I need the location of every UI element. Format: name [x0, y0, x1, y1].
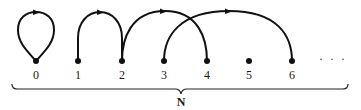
node-4	[204, 58, 210, 64]
node-2	[119, 58, 125, 64]
nodes	[33, 58, 295, 64]
node-3	[161, 58, 167, 64]
arrow-icon	[97, 10, 104, 16]
node-label-5: 5	[246, 68, 252, 82]
node-labels: 0 1 2 3 4 5 6	[33, 68, 295, 82]
arrow-icon	[225, 9, 232, 15]
natural-numbers-diagram: 0 1 2 3 4 5 6 · · · N	[0, 0, 361, 110]
node-label-1: 1	[75, 68, 81, 82]
underbrace	[12, 84, 348, 94]
node-label-3: 3	[161, 68, 167, 82]
edge-1-to-2	[78, 10, 122, 62]
node-label-2: 2	[119, 68, 125, 82]
node-label-0: 0	[33, 68, 39, 82]
node-6	[289, 58, 295, 64]
set-label-N: N	[177, 95, 186, 109]
node-1	[75, 58, 81, 64]
ellipsis: · · ·	[319, 52, 347, 66]
node-label-6: 6	[289, 68, 295, 82]
node-0	[33, 58, 39, 64]
arrow-icon	[33, 10, 40, 16]
node-5	[246, 58, 252, 64]
arrow-icon	[160, 9, 167, 15]
node-label-4: 4	[204, 68, 210, 82]
edge-loop-0	[18, 10, 54, 62]
edge-3-to-6	[164, 9, 292, 62]
